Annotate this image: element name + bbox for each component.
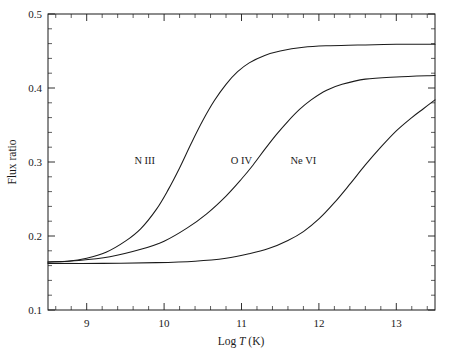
y-tick-label-0.4: 0.4 [28, 82, 42, 94]
y-axis-tick-labels: 0.10.20.30.40.5 [28, 8, 42, 316]
y-tick-label-0.3: 0.3 [28, 156, 42, 168]
data-curves [48, 44, 435, 263]
curve-ne-vi [48, 100, 435, 264]
y-tick-label-0.2: 0.2 [28, 230, 42, 242]
x-axis-title-suffix: (K) [245, 335, 264, 348]
x-axis-title: Log T (K) [218, 335, 265, 348]
x-tick-label-11: 11 [236, 317, 247, 329]
curve-label-n-iii: N III [134, 155, 155, 166]
x-tick-label-13: 13 [391, 317, 403, 329]
y-tick-label-0.1: 0.1 [28, 304, 42, 316]
flux-ratio-line-chart: 910111213 0.10.20.30.40.5 N IIIO IVNe VI… [0, 0, 449, 359]
curve-annotations: N IIIO IVNe VI [134, 155, 316, 166]
x-tick-label-12: 12 [313, 317, 324, 329]
x-tick-label-10: 10 [159, 317, 171, 329]
y-axis-title: Flux ratio [6, 139, 18, 184]
curve-label-o-iv: O IV [231, 155, 253, 166]
curve-label-ne-vi: Ne VI [291, 155, 317, 166]
x-axis-title-prefix: Log [218, 335, 239, 348]
figure-container: 910111213 0.10.20.30.40.5 N IIIO IVNe VI… [0, 0, 449, 359]
x-tick-label-9: 9 [84, 317, 90, 329]
y-tick-label-0.5: 0.5 [28, 8, 42, 20]
curve-n-iii [48, 44, 435, 262]
x-axis-tick-labels: 910111213 [84, 317, 402, 329]
curve-o-iv [48, 75, 435, 261]
